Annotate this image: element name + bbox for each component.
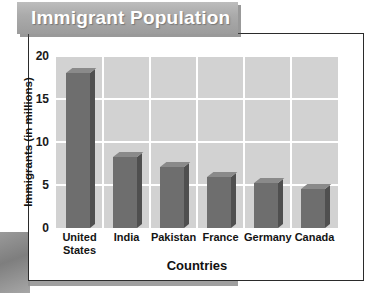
page-title: Immigrant Population — [17, 7, 230, 29]
bar-front-face — [113, 157, 137, 228]
y-axis-tick-label: 15 — [36, 92, 49, 106]
title-banner: Immigrant Population — [17, 2, 238, 34]
x-axis-tick-label: France — [197, 231, 244, 244]
bar — [207, 177, 231, 228]
vertical-gridline — [290, 56, 292, 228]
bar-side-face — [184, 163, 189, 228]
y-axis-tick-label: 20 — [36, 49, 49, 63]
panel-drop-shadow — [28, 281, 238, 286]
y-axis-tick-label: 10 — [36, 135, 49, 149]
y-axis-title: Immigrants (in millions) — [20, 56, 36, 228]
x-axis-tick-label: United States — [56, 231, 103, 256]
vertical-gridline — [196, 56, 198, 228]
decorative-corner-block — [0, 232, 30, 293]
bar — [254, 183, 278, 228]
vertical-gridline — [149, 56, 151, 228]
x-axis-tick-label: Germany — [244, 231, 291, 244]
y-axis-title-label: Immigrants (in millions) — [22, 77, 34, 207]
bar-front-face — [254, 183, 278, 228]
y-axis-tick-label: 5 — [42, 178, 49, 192]
x-axis-tick-label: Canada — [291, 231, 338, 244]
bar-front-face — [160, 167, 184, 228]
y-axis-tick-label: 0 — [42, 221, 49, 235]
bar-front-face — [301, 189, 325, 228]
bar-side-face — [90, 69, 95, 228]
bar-side-face — [278, 179, 283, 228]
x-axis-tick-label: Pakistan — [150, 231, 197, 244]
bar — [160, 167, 184, 228]
bar — [301, 189, 325, 228]
x-axis-title: Countries — [56, 258, 338, 273]
bar-side-face — [137, 154, 142, 228]
vertical-gridline — [243, 56, 245, 228]
bar-front-face — [207, 177, 231, 228]
bar — [113, 157, 137, 228]
vertical-gridline — [102, 56, 104, 228]
bar — [66, 73, 90, 228]
bar-chart: 05101520 — [56, 56, 338, 228]
x-axis-tick-label: India — [103, 231, 150, 244]
bar-front-face — [66, 73, 90, 228]
bar-side-face — [231, 173, 236, 228]
bar-side-face — [325, 185, 330, 228]
